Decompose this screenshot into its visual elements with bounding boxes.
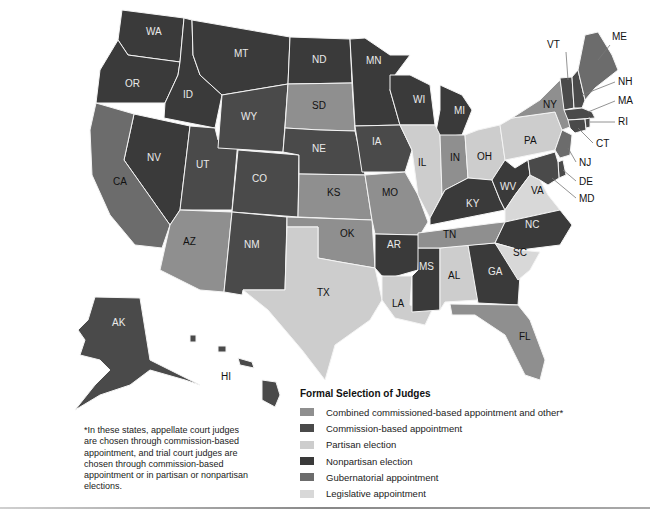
label-ca: CA <box>113 176 127 187</box>
label-vt: VT <box>547 39 560 50</box>
label-ar: AR <box>387 239 401 250</box>
legend-swatch <box>300 424 314 432</box>
label-wv: WV <box>500 181 516 192</box>
label-wa: WA <box>146 26 162 37</box>
legend-label: Nonpartisan election <box>326 456 413 467</box>
label-nj: NJ <box>579 157 591 168</box>
legend-label: Partisan election <box>326 439 396 450</box>
label-nd: ND <box>312 54 326 65</box>
legend-swatch <box>300 457 314 465</box>
label-tn: TN <box>443 229 456 240</box>
label-nc: NC <box>525 219 539 230</box>
legend-label: Commission-based appointment <box>326 423 462 434</box>
state-hi-island[interactable] <box>218 346 226 352</box>
label-ga: GA <box>488 266 503 277</box>
state-ak[interactable] <box>75 297 200 410</box>
label-me: ME <box>612 31 627 42</box>
label-nh: NH <box>618 76 632 87</box>
label-ne: NE <box>312 143 326 154</box>
label-ia: IA <box>372 136 382 147</box>
legend-swatch <box>300 473 314 481</box>
label-ks: KS <box>327 187 341 198</box>
legend-item-gubernatorial: Gubernatorial appointment <box>300 469 640 485</box>
label-in: IN <box>450 152 460 163</box>
legend-item-commission: Commission-based appointment <box>300 420 640 436</box>
label-mt: MT <box>234 48 248 59</box>
label-tx: TX <box>317 287 330 298</box>
legend-label: Gubernatorial appointment <box>326 472 439 483</box>
label-az: AZ <box>183 236 196 247</box>
state-me[interactable] <box>578 32 618 100</box>
label-ms: MS <box>419 261 434 272</box>
label-co: CO <box>252 173 267 184</box>
bottom-rule <box>0 507 650 509</box>
state-ri[interactable] <box>585 118 590 128</box>
legend-title: Formal Selection of Judges <box>300 388 640 399</box>
label-ak: AK <box>112 317 126 328</box>
label-md: MD <box>579 193 595 204</box>
legend-swatch <box>300 441 314 449</box>
legend-swatch <box>300 408 314 416</box>
label-id: ID <box>183 89 193 100</box>
state-hi-island[interactable] <box>190 335 196 342</box>
label-ut: UT <box>196 159 209 170</box>
label-de: DE <box>579 176 593 187</box>
label-or: OR <box>125 78 140 89</box>
label-la: LA <box>392 298 405 309</box>
label-ri: RI <box>618 116 628 127</box>
label-il: IL <box>418 157 427 168</box>
legend-item-combined: Combined commissioned-based appointment … <box>300 404 640 420</box>
state-hi[interactable] <box>262 380 280 407</box>
label-nv: NV <box>147 152 161 163</box>
label-sd: SD <box>312 100 326 111</box>
label-ny: NY <box>543 99 557 110</box>
label-hi: HI <box>221 371 231 382</box>
label-ky: KY <box>466 198 480 209</box>
legend-item-nonpartisan: Nonpartisan election <box>300 453 640 469</box>
label-nm: NM <box>244 239 260 250</box>
legend-item-partisan: Partisan election <box>300 437 640 453</box>
label-ma: MA <box>618 95 633 106</box>
state-fl[interactable] <box>450 304 545 380</box>
state-hi-island[interactable] <box>238 358 254 368</box>
label-al: AL <box>448 270 461 281</box>
footnote: *In these states, appellate court judges… <box>84 425 254 493</box>
legend-swatch <box>300 490 314 498</box>
label-fl: FL <box>519 331 531 342</box>
label-pa: PA <box>524 135 537 146</box>
legend: Formal Selection of Judges Combined comm… <box>300 388 640 502</box>
label-sc: SC <box>513 247 527 258</box>
label-wi: WI <box>413 94 425 105</box>
label-ct: CT <box>596 138 609 149</box>
label-wy: WY <box>241 111 257 122</box>
legend-label: Legislative appointment <box>326 488 426 499</box>
label-mn: MN <box>366 55 382 66</box>
label-mo: MO <box>382 187 398 198</box>
label-oh: OH <box>477 151 492 162</box>
label-mi: MI <box>454 105 465 116</box>
label-ok: OK <box>340 228 355 239</box>
label-va: VA <box>531 185 544 196</box>
state-nm[interactable] <box>224 212 287 295</box>
state-ct[interactable] <box>568 119 586 133</box>
legend-item-legislative: Legislative appointment <box>300 485 640 501</box>
legend-label: Combined commissioned-based appointment … <box>326 407 563 418</box>
